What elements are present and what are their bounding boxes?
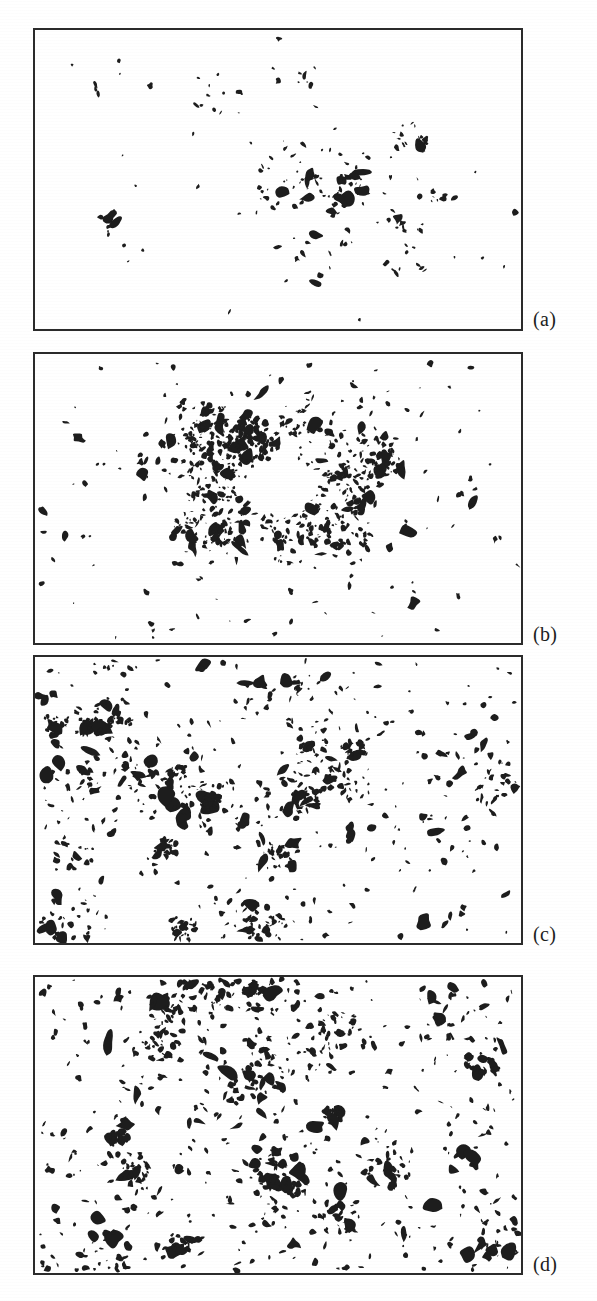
- patch-layer-a: [35, 30, 521, 329]
- map-plot-area-d: [35, 977, 521, 1273]
- patch-layer-d: [35, 977, 521, 1273]
- map-plot-area-b: [35, 354, 521, 643]
- map-panel-d: [33, 975, 523, 1275]
- built-up-patches-b: [38, 360, 520, 640]
- panel-label-c: (c): [533, 923, 556, 946]
- panel-label-b: (b): [533, 623, 557, 646]
- map-panel-c: [33, 655, 523, 945]
- panel-label-d: (d): [533, 1253, 557, 1276]
- page-running-head: [355, 0, 595, 9]
- map-plot-area-c: [35, 657, 521, 943]
- built-up-patches-a: [71, 37, 519, 322]
- built-up-patches-d: [39, 977, 521, 1273]
- patch-layer-b: [35, 354, 521, 643]
- map-plot-area-a: [35, 30, 521, 329]
- map-panel-b: [33, 352, 523, 645]
- panel-label-a: (a): [533, 308, 556, 331]
- built-up-patches-c: [35, 658, 520, 943]
- map-panel-a: [33, 28, 523, 331]
- patch-layer-c: [35, 657, 521, 943]
